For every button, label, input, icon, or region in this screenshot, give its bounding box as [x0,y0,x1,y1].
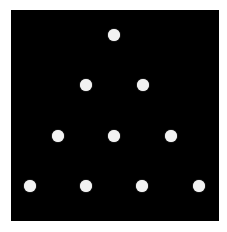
dot-row4-4 [193,180,205,192]
dot-row4-1 [24,180,36,192]
dot-row4-3 [136,180,148,192]
dot-row3-1 [52,130,64,142]
dot-row4-2 [80,180,92,192]
dot-row2-2 [137,79,149,91]
dot-row3-2 [108,130,120,142]
dot-row1-1 [108,29,120,41]
dot-row2-1 [80,79,92,91]
black-board [11,10,219,221]
dot-row3-3 [165,130,177,142]
